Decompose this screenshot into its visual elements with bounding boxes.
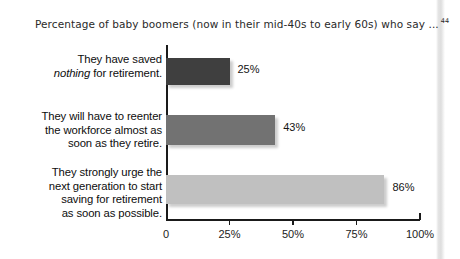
x-tick-3 <box>356 219 357 225</box>
bar-1-value-label: 25% <box>238 63 260 75</box>
chart-title-text: Percentage of baby boomers (now in their… <box>35 18 439 30</box>
bar-2 <box>166 115 275 145</box>
x-tick-label-4: 100% <box>406 228 434 240</box>
category-label-3-line-1: They strongly urge the <box>18 166 162 180</box>
category-label-1-line-1: They have saved <box>18 53 162 67</box>
bar-2-value-label: 43% <box>283 121 305 133</box>
x-tick-2 <box>292 219 293 225</box>
category-label-3-line-3: saving for retirement <box>18 193 162 207</box>
x-tick-4 <box>419 213 420 220</box>
emphasis-nothing: nothing <box>54 67 90 79</box>
category-label-1: They have saved nothing for retirement. <box>18 53 162 80</box>
bar-3-value-label: 86% <box>392 181 414 193</box>
x-tick-label-0: 0 <box>163 228 169 240</box>
chart-title: Percentage of baby boomers (now in their… <box>35 17 449 30</box>
x-tick-label-1: 25% <box>218 228 240 240</box>
bar-3 <box>166 175 384 204</box>
x-tick-1 <box>229 219 230 225</box>
category-label-1-line-2: nothing for retirement. <box>18 67 162 81</box>
category-label-2-line-3: soon as they retire. <box>18 137 162 151</box>
category-label-3: They strongly urge the next generation t… <box>18 166 162 220</box>
x-tick-label-3: 75% <box>345 228 367 240</box>
x-tick-0 <box>166 213 167 220</box>
category-label-2-line-2: the workforce almost as <box>18 124 162 138</box>
category-label-3-line-2: next generation to start <box>18 180 162 194</box>
x-tick-label-2: 50% <box>282 228 304 240</box>
plot-area: 025%50%75%100% 25% 43% 86% <box>166 45 420 219</box>
chart-page: Percentage of baby boomers (now in their… <box>0 0 460 259</box>
category-label-2-line-1: They will have to reenter <box>18 110 162 124</box>
bar-1 <box>166 58 230 85</box>
category-label-2: They will have to reenter the workforce … <box>18 110 162 151</box>
page-edge-artifact <box>436 0 445 259</box>
chart-title-footnote: 44 <box>441 17 449 25</box>
category-label-3-line-4: as soon as possible. <box>18 207 162 221</box>
